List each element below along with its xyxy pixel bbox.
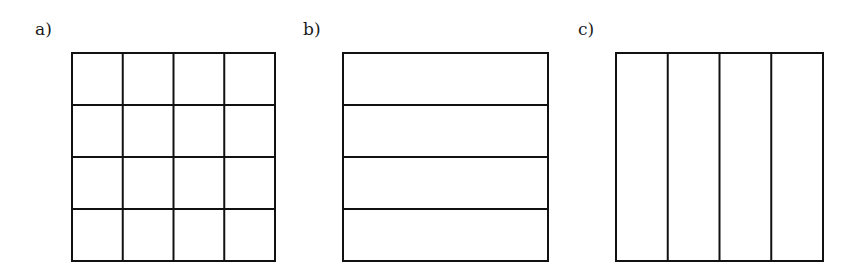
grid-vertical-strips [616,53,823,261]
grid-diagrams [0,0,856,274]
grid-horizontal-strips [343,53,548,261]
grid-4x4 [72,53,275,261]
